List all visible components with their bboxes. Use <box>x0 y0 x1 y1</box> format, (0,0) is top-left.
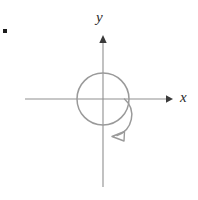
y-axis-label: y <box>96 10 103 25</box>
list-bullet-marker <box>3 29 7 33</box>
x-axis-arrowhead <box>166 95 173 103</box>
x-axis-label: x <box>180 90 187 105</box>
coordinate-diagram-svg <box>0 0 198 200</box>
y-axis-arrowhead <box>99 35 106 43</box>
figure-canvas: y x <box>0 0 198 200</box>
spiral-arc <box>117 99 132 136</box>
spiral-direction-arrowhead <box>112 132 125 142</box>
